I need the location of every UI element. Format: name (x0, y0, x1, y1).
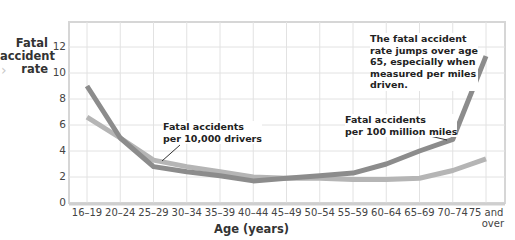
y-tick-label: 4 (46, 144, 66, 156)
chevron-right-icon: › (1, 62, 7, 78)
x-axis-label: Age (years) (214, 222, 289, 236)
annotation-2: The fatal accidentrate jumps over age65,… (370, 33, 478, 91)
y-tick-label: 8 (46, 92, 66, 104)
y-axis-label-line: rate (0, 63, 48, 76)
y-tick-label: 0 (46, 196, 66, 208)
y-tick-label: 12 (46, 40, 66, 52)
annotation-0: Fatal accidentsper 10,000 drivers (163, 121, 262, 144)
y-tick-label: 2 (46, 170, 66, 182)
annotation-1: Fatal accidentsper 100 million miles (345, 114, 457, 137)
y-tick-label: 10 (46, 66, 66, 78)
y-tick-label: 6 (46, 118, 66, 130)
y-axis-label: Fatalaccidentrate (0, 37, 48, 76)
x-tick-label: 75 andover (466, 207, 506, 229)
